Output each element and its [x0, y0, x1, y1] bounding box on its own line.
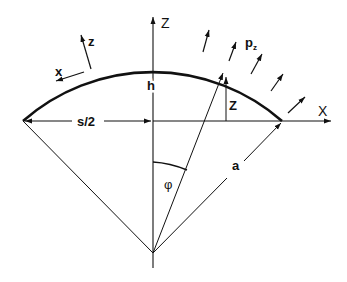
pressure-label: pz	[245, 35, 257, 52]
shell-geometry-diagram: Z X s/2 h a Z φ z x pz	[0, 0, 347, 282]
radius-line-a-upper	[244, 123, 281, 161]
radius-label: a	[232, 158, 240, 173]
local-z-label: z	[88, 34, 95, 49]
left-radius-line	[23, 121, 153, 253]
height-label: h	[147, 78, 155, 93]
ordinate-label: Z	[229, 98, 237, 113]
half-span-label: s/2	[77, 114, 95, 129]
local-x-label: x	[55, 64, 63, 79]
z-axis-label: Z	[161, 15, 170, 31]
x-axis-label: X	[318, 103, 328, 119]
angle-label: φ	[164, 177, 172, 192]
angle-arc	[153, 162, 187, 170]
